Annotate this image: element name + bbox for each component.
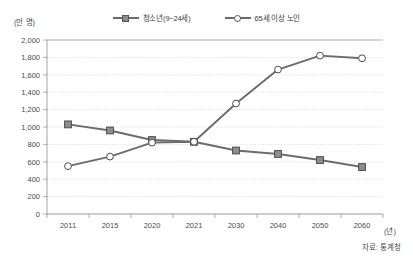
data-point-youth (359, 164, 366, 171)
series-line-elderly (68, 56, 362, 166)
x-axis-tick-label: 2060 (354, 221, 371, 230)
data-point-elderly (317, 52, 324, 59)
y-axis-tick-label: 2,000 (21, 36, 40, 45)
y-axis-tick-label: 1,600 (21, 71, 40, 80)
x-axis-tick-label: 2015 (102, 221, 119, 230)
data-point-youth (317, 157, 324, 164)
data-point-youth (275, 151, 282, 158)
y-axis-tick-label: 600 (27, 158, 40, 167)
data-point-youth (65, 121, 72, 128)
x-axis-tick-label: 2040 (270, 221, 287, 230)
y-axis-tick-label: 200 (27, 192, 40, 201)
data-point-youth (233, 147, 240, 154)
data-point-elderly (65, 163, 72, 170)
data-point-elderly (191, 138, 198, 145)
y-axis-tick-label: 1,400 (21, 88, 40, 97)
y-axis-tick-label: 1,800 (21, 53, 40, 62)
data-point-elderly (359, 55, 366, 62)
data-point-elderly (149, 139, 156, 146)
data-point-youth (107, 127, 114, 134)
x-axis-tick-label: 2030 (228, 221, 245, 230)
data-point-elderly (107, 153, 114, 160)
chart-container: 청소년(9~24세) 65세 이상 노인 (만 명) (년) 자료: 통계청 0… (0, 0, 413, 266)
y-axis-tick-label: 400 (27, 175, 40, 184)
y-axis-tick-label: 800 (27, 140, 40, 149)
x-axis-tick-label: 2020 (144, 221, 161, 230)
x-axis-tick-label: 2011 (60, 221, 76, 230)
chart-plot-area: 02004006008001,0001,2001,4001,6001,8002,… (0, 0, 413, 266)
x-axis-tick-label: 2021 (186, 221, 203, 230)
y-axis-tick-label: 1,200 (21, 105, 40, 114)
data-point-elderly (275, 66, 282, 73)
y-axis-tick-label: 0 (36, 210, 40, 219)
data-point-elderly (233, 100, 240, 107)
x-axis-tick-label: 2050 (312, 221, 329, 230)
y-axis-tick-label: 1,000 (21, 123, 40, 132)
